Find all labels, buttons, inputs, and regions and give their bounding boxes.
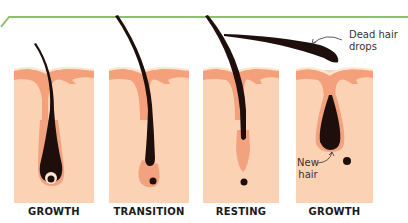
new-hair-text-line2: hair: [297, 169, 319, 181]
dead-hair-text-line2: drops: [349, 41, 398, 53]
stage-label-transition: TRANSITION: [104, 206, 194, 217]
stage-label-growth: GROWTH: [14, 206, 94, 217]
stage-panel-growth-new: [296, 68, 373, 203]
dead-hair-annotation: Dead hair drops: [349, 29, 398, 53]
stage-panel-growth: [14, 43, 94, 203]
stage-panel-transition: [109, 15, 189, 203]
stage-panel-resting: [203, 15, 279, 203]
stage-label-growth-new: GROWTH: [296, 206, 373, 217]
dead-hair-arrow: [312, 37, 342, 44]
new-hair-text-line1: New: [297, 157, 319, 169]
frame-line: [1, 17, 408, 27]
new-hair-annotation: New hair: [297, 157, 319, 181]
hair-cycle-diagram: [0, 0, 408, 223]
dead-hair-text-line1: Dead hair: [349, 29, 398, 41]
stage-label-resting: RESTING: [203, 206, 279, 217]
